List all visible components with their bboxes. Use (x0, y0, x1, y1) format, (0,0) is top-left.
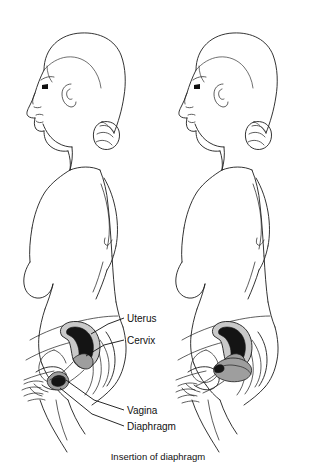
anatomical-illustration: Uterus Cervix Vagina Diaphragm Insertion… (0, 0, 317, 470)
label-vagina: Vagina (127, 405, 158, 416)
label-uterus-text: Uterus (127, 313, 156, 324)
label-cervix: Cervix (127, 335, 155, 346)
illustration-figure: Uterus Cervix Vagina Diaphragm Insertion… (0, 0, 317, 470)
label-cervix-text: Cervix (127, 335, 155, 346)
label-diaphragm-text: Diaphragm (127, 421, 176, 432)
label-diaphragm: Diaphragm (127, 421, 176, 432)
figure-caption: Insertion of diaphragm (111, 451, 206, 462)
label-uterus: Uterus (127, 313, 156, 324)
label-vagina-text: Vagina (127, 405, 158, 416)
